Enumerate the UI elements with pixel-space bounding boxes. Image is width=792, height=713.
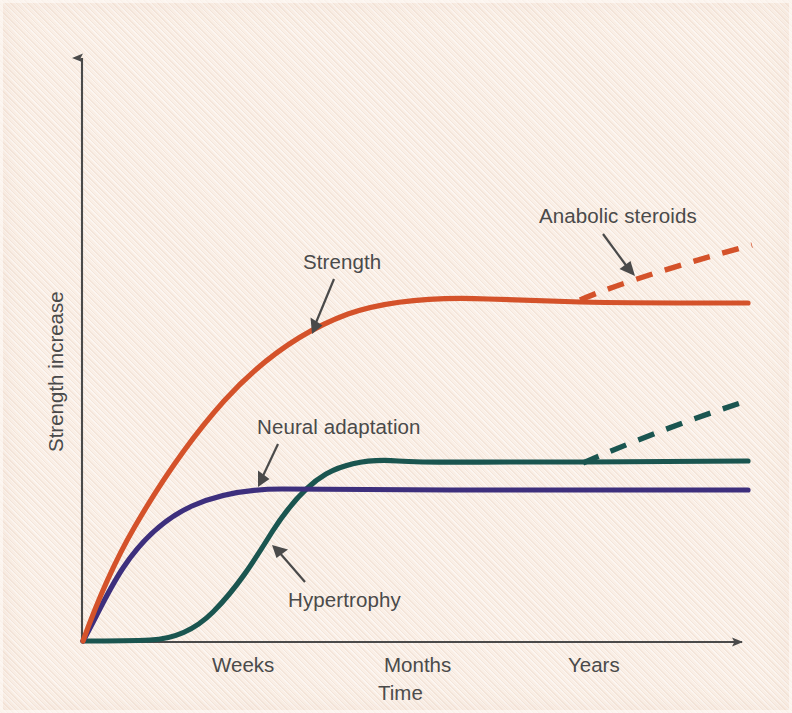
annotation-hypertrophy: Hypertrophy <box>288 590 401 611</box>
strength-training-adaptation-figure: Strength increase Time Weeks Months Year… <box>0 0 792 713</box>
strength-curve-dashed-steroids <box>580 245 752 300</box>
annotation-arrows <box>258 234 635 582</box>
strength-curve-solid <box>83 298 748 641</box>
neural-adaptation-leader-arrow <box>258 444 278 487</box>
x-tick-label-months: Months <box>384 655 451 676</box>
anabolic-steroids-leader-arrow <box>603 234 635 276</box>
neural-adaptation-curve <box>83 489 748 641</box>
annotation-neural-adaptation: Neural adaptation <box>257 417 421 438</box>
hypertrophy-leader-arrow <box>272 545 305 582</box>
y-axis-label: Strength increase <box>46 291 67 452</box>
annotation-strength: Strength <box>303 252 381 273</box>
axis-group <box>81 58 742 642</box>
series-neural-adaptation <box>83 489 748 641</box>
series-strength <box>83 245 752 641</box>
hypertrophy-curve-dashed-steroids <box>583 400 750 463</box>
x-axis-label: Time <box>378 683 423 704</box>
x-tick-label-weeks: Weeks <box>212 655 274 676</box>
x-tick-label-years: Years <box>568 655 620 676</box>
annotation-anabolic-steroids: Anabolic steroids <box>539 206 697 227</box>
